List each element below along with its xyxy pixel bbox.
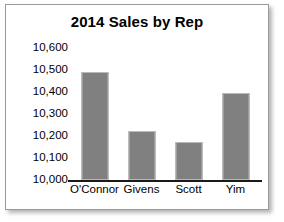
- bar-slot: [118, 48, 165, 180]
- y-axis-tick: 10,000: [14, 174, 68, 186]
- bar-slot: [165, 48, 212, 180]
- bar-slot: [71, 48, 118, 180]
- y-axis-tick: 10,200: [14, 130, 68, 142]
- y-axis-tick: 10,100: [14, 152, 68, 164]
- y-axis-tick: 10,300: [14, 108, 68, 120]
- bar-slot: [212, 48, 259, 180]
- plot-area: [71, 48, 259, 180]
- x-axis-tick-labels: O'ConnorGivensScottYim: [71, 183, 259, 203]
- y-axis-tick: 10,400: [14, 86, 68, 98]
- y-axis-tick: 10,500: [14, 64, 68, 76]
- bar-yim[interactable]: [222, 93, 249, 180]
- bar-scott[interactable]: [175, 142, 202, 181]
- chart-plot: 10,60010,50010,40010,30010,20010,10010,0…: [6, 5, 270, 211]
- x-axis-line: [68, 180, 262, 182]
- bar-o-connor[interactable]: [81, 72, 108, 180]
- chart-card: 2014 Sales by Rep 10,60010,50010,40010,3…: [5, 4, 269, 210]
- y-axis-tick-labels: 10,60010,50010,40010,30010,20010,10010,0…: [14, 5, 68, 211]
- y-axis-tick: 10,600: [14, 42, 68, 54]
- bar-givens[interactable]: [128, 131, 155, 181]
- x-axis-tick-yim: Yim: [208, 183, 264, 195]
